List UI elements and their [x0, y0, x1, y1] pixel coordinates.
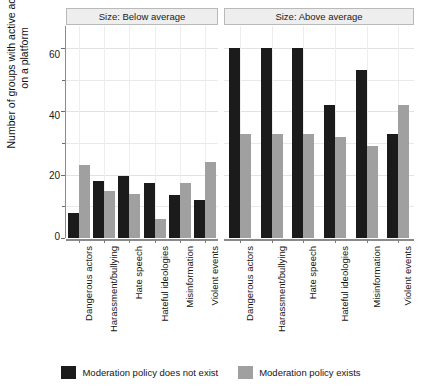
y-axis-tick-labels: 60 40 20 0 — [34, 0, 60, 392]
facet-strip-label: Size: Above average — [275, 11, 362, 22]
bar-group-4 — [356, 70, 378, 238]
bar-policy-exists-0 — [240, 134, 251, 238]
facet-strip-label: Size: Below average — [99, 11, 186, 22]
facet-strip-above-average: Size: Above average — [224, 8, 414, 25]
x-axis-label-4: Misinformation — [184, 246, 196, 342]
x-axis-tick-5 — [398, 240, 399, 243]
facet-panel-below-average — [66, 26, 218, 238]
x-axis-tick-4 — [180, 240, 181, 243]
x-axis-label-4: Misinformation — [371, 246, 383, 342]
y-axis-title-line1: Number of groups with active accounts — [5, 0, 17, 148]
bar-policy-exists-4 — [180, 183, 191, 238]
x-axis-tick-1 — [272, 240, 273, 243]
x-axis-label-3: Hateful ideologies — [159, 246, 171, 342]
y-tick-label-60: 60 — [36, 50, 60, 60]
legend-label: Moderation policy does not exist — [82, 367, 218, 378]
gridline-major-40 — [224, 111, 414, 112]
plot-area — [224, 26, 414, 238]
bar-group-3 — [144, 183, 166, 238]
gridline-minor-30 — [66, 143, 218, 144]
x-axis-label-1: Harassment/bullying — [276, 246, 288, 342]
y-axis-tick-20 — [61, 175, 65, 176]
bar-policy-exists-2 — [303, 134, 314, 238]
legend-swatch-icon — [61, 366, 76, 379]
x-axis-label-1: Harassment/bullying — [108, 246, 120, 342]
x-axis-label-0: Dangerous actors — [83, 246, 95, 342]
bar-group-0 — [229, 48, 251, 238]
bar-policy-exists-0 — [79, 165, 90, 238]
bar-policy-exists-3 — [335, 137, 346, 238]
bar-no-policy-5 — [194, 200, 205, 238]
gridline-minor-30 — [224, 143, 414, 144]
legend-item-no-policy: Moderation policy does not exist — [61, 366, 218, 379]
y-tick-label-0: 0 — [36, 232, 60, 242]
bar-no-policy-3 — [324, 105, 335, 238]
gridline-major-40 — [66, 111, 218, 112]
bar-policy-exists-1 — [272, 134, 283, 238]
bar-no-policy-2 — [292, 48, 303, 238]
bar-no-policy-0 — [68, 213, 79, 238]
x-axis-line-right — [224, 239, 414, 241]
gridline-minor-10 — [224, 206, 414, 207]
x-axis-tick-5 — [205, 240, 206, 243]
bar-no-policy-2 — [118, 176, 129, 238]
x-axis-tick-2 — [303, 240, 304, 243]
bar-group-3 — [324, 105, 346, 238]
x-axis-label-0: Dangerous actors — [244, 246, 256, 342]
gridline-minor-50 — [66, 80, 218, 81]
gridline-major-20 — [224, 175, 414, 176]
y-axis-tick-10 — [62, 206, 65, 207]
x-axis-line-left — [66, 239, 218, 241]
bar-group-2 — [118, 176, 140, 238]
y-tick-label-20: 20 — [36, 171, 60, 181]
bar-policy-exists-4 — [367, 146, 378, 238]
bar-policy-exists-3 — [155, 219, 166, 238]
x-axis-label-5: Violent events — [209, 246, 221, 342]
gridline-major-60 — [66, 48, 218, 49]
y-axis-tick-50 — [62, 80, 65, 81]
bar-group-0 — [68, 165, 90, 238]
bar-policy-exists-5 — [205, 162, 216, 238]
y-axis-tick-30 — [62, 143, 65, 144]
x-axis-tick-3 — [155, 240, 156, 243]
x-axis-tick-3 — [335, 240, 336, 243]
gridline-minor-50 — [224, 80, 414, 81]
gridline-major-60 — [224, 48, 414, 49]
y-axis-tick-60 — [61, 48, 65, 49]
x-axis-tick-0 — [79, 240, 80, 243]
x-axis-label-3: Hateful ideologies — [339, 246, 351, 342]
y-axis-title-line2: on a platform — [18, 27, 30, 88]
bar-group-5 — [387, 105, 409, 238]
x-axis-label-2: Hate speech — [307, 246, 319, 342]
facet-strip-below-average: Size: Below average — [66, 8, 218, 25]
legend: Moderation policy does not exist Moderat… — [0, 362, 422, 382]
plot-area — [66, 26, 218, 238]
bar-no-policy-4 — [356, 70, 367, 238]
x-axis-label-5: Violent events — [402, 246, 414, 342]
bar-no-policy-1 — [261, 48, 272, 238]
bar-group-5 — [194, 162, 216, 238]
bar-no-policy-5 — [387, 134, 398, 238]
bar-group-1 — [93, 181, 115, 238]
legend-label: Moderation policy exists — [259, 367, 360, 378]
x-axis-tick-0 — [240, 240, 241, 243]
bar-no-policy-4 — [169, 195, 180, 238]
legend-swatch-icon — [238, 366, 253, 379]
bar-group-4 — [169, 183, 191, 238]
bar-group-1 — [261, 48, 283, 238]
x-axis-tick-4 — [367, 240, 368, 243]
bar-no-policy-0 — [229, 48, 240, 238]
bar-group-2 — [292, 48, 314, 238]
x-axis-tick-1 — [104, 240, 105, 243]
bar-no-policy-1 — [93, 181, 104, 238]
bar-policy-exists-2 — [129, 194, 140, 238]
x-axis-label-2: Hate speech — [133, 246, 145, 342]
x-axis-tick-2 — [129, 240, 130, 243]
bar-policy-exists-5 — [398, 105, 409, 238]
y-axis-tick-40 — [61, 111, 65, 112]
bar-chart: Number of groups with active accounts on… — [0, 0, 422, 392]
bar-policy-exists-1 — [104, 191, 115, 238]
facet-panel-above-average — [224, 26, 414, 238]
legend-item-policy-exists: Moderation policy exists — [238, 366, 360, 379]
y-tick-label-40: 40 — [36, 111, 60, 121]
